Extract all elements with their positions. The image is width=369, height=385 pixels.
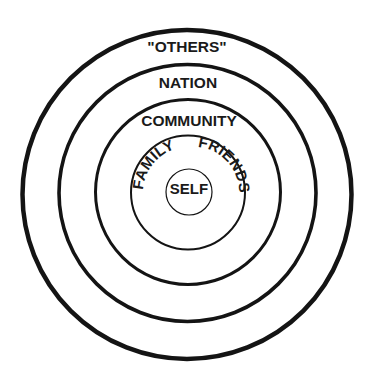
label-nation: NATION (159, 74, 217, 91)
label-others: "OTHERS" (147, 38, 226, 55)
concentric-circles-diagram: "OTHERS" NATION COMMUNITY FAMILY FRIENDS… (0, 0, 369, 385)
label-community: COMMUNITY (141, 112, 237, 129)
label-self: SELF (170, 180, 208, 197)
